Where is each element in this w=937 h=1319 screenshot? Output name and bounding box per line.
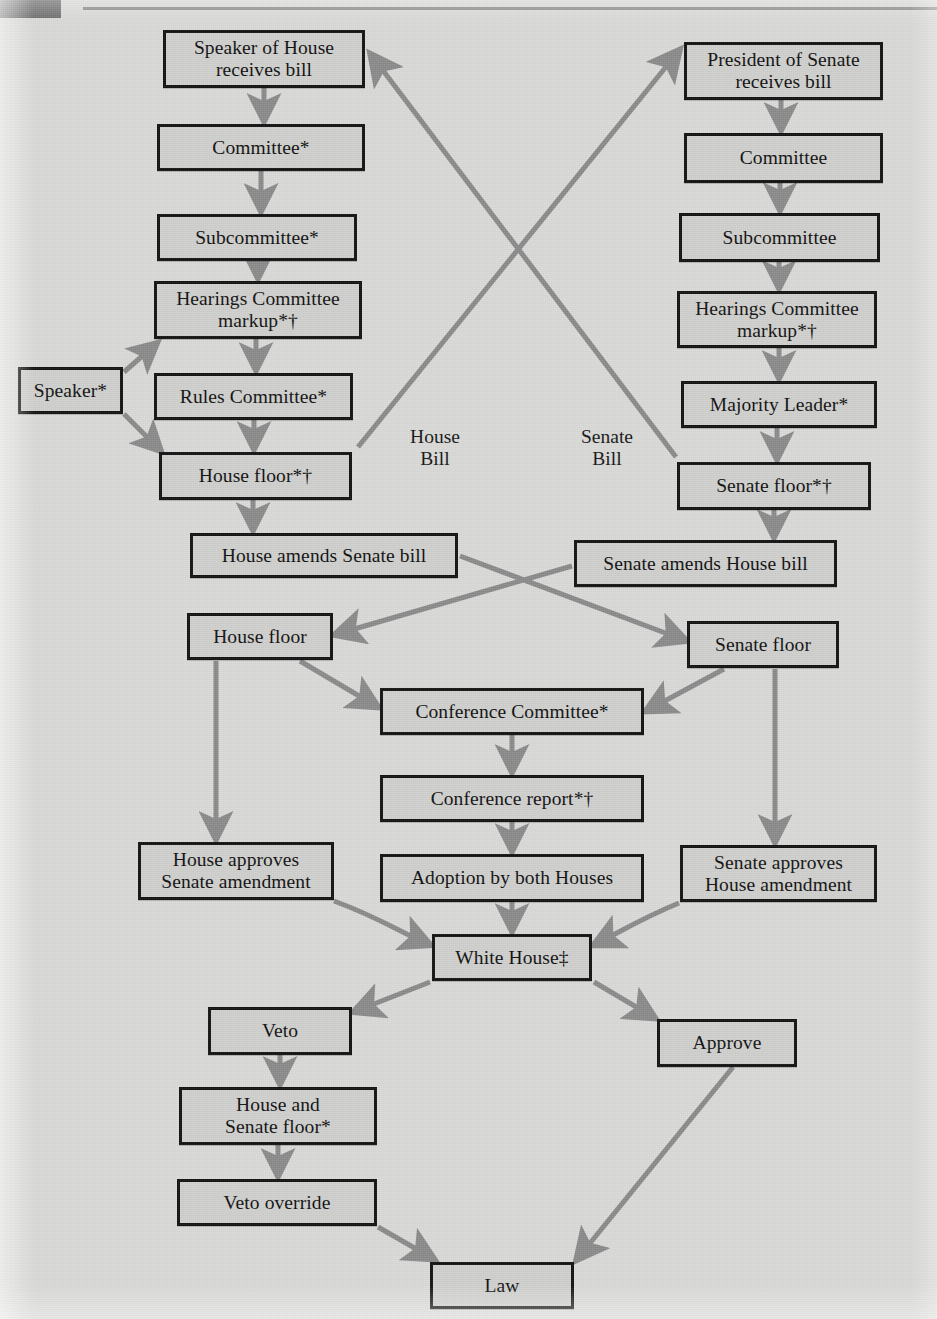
house-bill-label: House Bill	[390, 426, 480, 470]
node-label: House amends Senate bill	[216, 545, 432, 567]
node-label: Committee*	[206, 137, 315, 159]
node-speaker-house-receives-bill[interactable]: Speaker of Housereceives bill	[163, 30, 365, 88]
node-label: Conference report*†	[425, 788, 600, 810]
node-house-committee[interactable]: Committee*	[157, 124, 365, 171]
node-white-house[interactable]: White House‡	[432, 934, 592, 981]
flowchart-page: Speaker of Housereceives bill Committee*…	[0, 0, 937, 1319]
node-label-line: Speaker of House	[188, 37, 340, 59]
node-label: Majority Leader*	[704, 394, 855, 416]
page-corner-mark	[0, 0, 61, 18]
node-president-of-senate-receives-bill[interactable]: President of Senatereceives bill	[684, 42, 883, 100]
node-label: Veto override	[218, 1192, 337, 1214]
node-label: House floor	[207, 626, 313, 648]
node-label: Committee	[734, 147, 834, 169]
node-senate-approves-house-amendment[interactable]: Senate approvesHouse amendment	[680, 845, 877, 902]
node-conference-committee[interactable]: Conference Committee*	[380, 688, 644, 735]
edge-speaker-to-hearings	[124, 344, 156, 372]
edge-white-house-to-approve	[594, 982, 653, 1017]
edge-white-house-to-veto	[356, 982, 430, 1011]
node-approve[interactable]: Approve	[657, 1019, 797, 1067]
node-house-floor-markup[interactable]: House floor*†	[159, 452, 352, 500]
edge-house-approves-to-white-house	[334, 901, 428, 944]
node-house-and-senate-floor[interactable]: House andSenate floor*	[179, 1087, 377, 1145]
house-bill-label-line: Bill	[420, 448, 449, 469]
node-label: Veto	[256, 1020, 304, 1042]
node-label: House floor*†	[193, 465, 318, 487]
node-law[interactable]: Law	[430, 1262, 574, 1309]
node-majority-leader[interactable]: Majority Leader*	[681, 381, 877, 428]
node-label: Subcommittee*	[189, 227, 325, 249]
node-label-line: Senate approves	[699, 852, 858, 874]
edge-house-floor-2-to-conference	[300, 661, 376, 706]
edge-approve-to-law	[578, 1067, 733, 1258]
node-senate-subcommittee[interactable]: Subcommittee	[679, 213, 880, 262]
node-label-line: Hearings Committee	[170, 288, 346, 310]
node-house-hearings-committee-markup[interactable]: Hearings Committeemarkup*†	[154, 281, 362, 339]
house-bill-label-line: House	[410, 426, 460, 447]
node-label: Senate floor*†	[710, 475, 838, 497]
node-label-line: House amendment	[699, 874, 858, 896]
node-veto[interactable]: Veto	[208, 1007, 352, 1055]
node-label: Conference Committee*	[409, 701, 614, 723]
node-label-line: Senate floor*	[219, 1116, 337, 1138]
node-label-line: markup*†	[170, 310, 346, 332]
node-label-line: Hearings Committee	[689, 298, 865, 320]
node-adoption-by-both-houses[interactable]: Adoption by both Houses	[380, 854, 644, 902]
node-speaker[interactable]: Speaker*	[18, 367, 123, 414]
node-conference-report[interactable]: Conference report*†	[380, 775, 644, 822]
node-label-line: President of Senate	[701, 49, 865, 71]
node-label: Senate floor	[709, 634, 817, 656]
node-senate-hearings-committee-markup[interactable]: Hearings Committeemarkup*†	[677, 291, 877, 348]
node-label-line: House approves	[155, 849, 316, 871]
node-veto-override[interactable]: Veto override	[177, 1179, 377, 1226]
node-label-line: receives bill	[188, 59, 340, 81]
node-senate-committee[interactable]: Committee	[684, 133, 883, 183]
node-label-line: markup*†	[689, 320, 865, 342]
edge-override-to-law	[378, 1227, 432, 1258]
node-label: Approve	[687, 1032, 768, 1054]
node-house-amends-senate-bill[interactable]: House amends Senate bill	[190, 533, 458, 578]
node-house-subcommittee[interactable]: Subcommittee*	[157, 214, 357, 261]
node-label: Senate amends House bill	[597, 553, 813, 575]
node-rules-committee[interactable]: Rules Committee*	[154, 373, 353, 420]
senate-bill-label-line: Senate	[581, 426, 633, 447]
edge-senate-floor-to-speaker-house	[372, 56, 676, 457]
node-label-line: receives bill	[701, 71, 865, 93]
node-house-approves-senate-amendment[interactable]: House approvesSenate amendment	[138, 842, 334, 900]
node-senate-amends-house-bill[interactable]: Senate amends House bill	[574, 540, 837, 587]
node-house-floor-second[interactable]: House floor	[187, 613, 333, 660]
node-label-line: House and	[219, 1094, 337, 1116]
node-label: Adoption by both Houses	[405, 867, 619, 889]
node-label: Subcommittee	[717, 227, 843, 249]
edge-senate-floor-2-to-conference	[648, 669, 724, 710]
senate-bill-label: Senate Bill	[562, 426, 652, 470]
node-label: Rules Committee*	[174, 386, 333, 408]
edge-senate-approves-to-white-house	[596, 903, 679, 944]
node-label-line: Senate amendment	[155, 871, 316, 893]
node-senate-floor-markup[interactable]: Senate floor*†	[677, 462, 871, 510]
page-top-rule	[83, 7, 937, 10]
senate-bill-label-line: Bill	[592, 448, 621, 469]
node-label: White House‡	[449, 947, 574, 969]
node-label: Speaker*	[28, 380, 113, 402]
node-senate-floor-second[interactable]: Senate floor	[687, 621, 839, 668]
node-label: Law	[479, 1275, 526, 1297]
